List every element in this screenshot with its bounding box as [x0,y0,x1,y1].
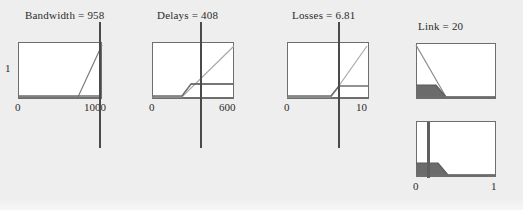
membership-curve-bandwidth [18,42,102,99]
fuzzy-rule-viewer-figure: Bandwidth = 958 1 0 1000 Delays = 408 0 … [0,0,523,210]
x-tick-bandwidth-min: 0 [15,101,21,113]
membership-curve-delays [152,42,234,99]
membership-curve-link-output [416,43,496,99]
membership-curve-losses [287,42,369,99]
panel-title-losses: Losses = 6.81 [292,9,356,21]
page-edge-fade [0,198,523,210]
cursor-line-bandwidth[interactable] [99,22,101,148]
cursor-line-losses[interactable] [338,22,340,148]
panel-title-link: Link = 20 [418,20,463,32]
defuzzified-centroid-bar [427,122,430,178]
x-tick-losses-max: 10 [356,101,367,113]
aggregate-curve-link [416,121,496,177]
panel-title-bandwidth: Bandwidth = 958 [25,9,104,21]
cursor-line-delays[interactable] [200,22,202,148]
y-axis-label: 1 [5,62,11,74]
x-tick-link-min: 0 [413,180,419,192]
x-tick-link-max: 1 [491,180,497,192]
x-tick-delays-max: 600 [219,101,236,113]
x-tick-bandwidth-max: 1000 [84,101,106,113]
panel-title-delays: Delays = 408 [157,9,218,21]
x-tick-losses-min: 0 [284,101,290,113]
x-tick-delays-min: 0 [149,101,155,113]
